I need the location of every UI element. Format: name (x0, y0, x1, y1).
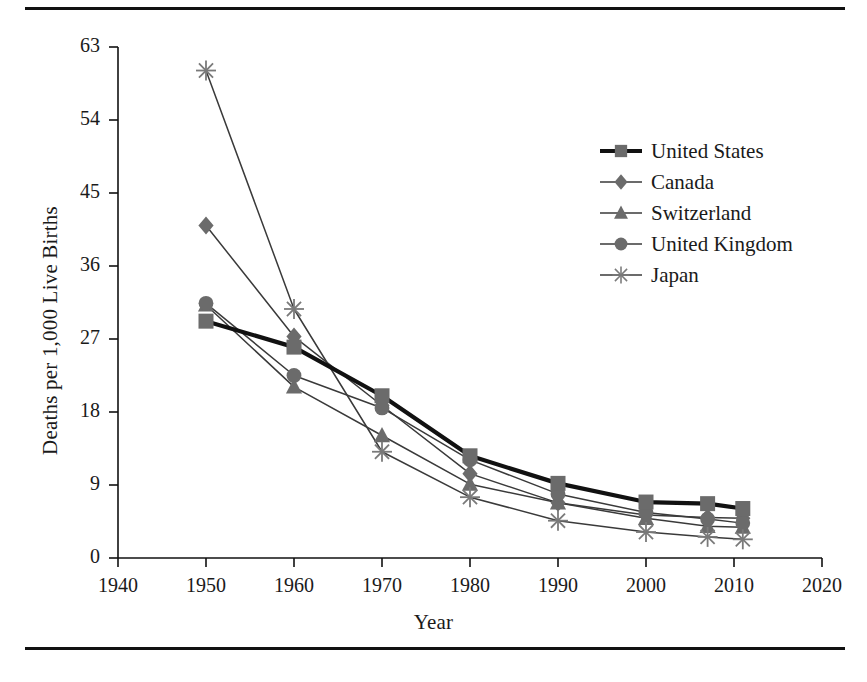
asterisk-ray (382, 445, 389, 452)
x-tick-label: 2000 (601, 574, 691, 597)
data-point-circle (287, 368, 302, 383)
asterisk-ray (615, 268, 621, 274)
data-point-square (700, 496, 715, 511)
asterisk-ray (621, 268, 627, 274)
legend-item-united-states[interactable]: United States (598, 135, 793, 166)
asterisk-ray (551, 521, 558, 528)
y-axis-title: Deaths per 1,000 Live Births (38, 101, 63, 561)
data-point-square (735, 501, 750, 516)
data-point-asterisk (284, 299, 304, 319)
asterisk-ray (701, 537, 708, 544)
square-marker (287, 340, 302, 355)
square-marker (735, 501, 750, 516)
x-tick-label: 1950 (161, 574, 251, 597)
diamond-marker (614, 174, 627, 190)
legend-label: United Kingdom (651, 233, 793, 255)
data-point-asterisk (548, 511, 568, 531)
data-point-square (551, 476, 566, 491)
figure-container: 0918273645546319401950196019701980199020… (0, 0, 867, 682)
circle-marker (199, 296, 214, 311)
asterisk-ray (639, 532, 646, 539)
legend-marker-circle-icon (598, 233, 644, 255)
x-axis-title: Year (0, 610, 867, 635)
chart-legend: United StatesCanadaSwitzerlandUnited Kin… (598, 135, 793, 290)
square-marker (700, 496, 715, 511)
asterisk-ray (287, 309, 294, 316)
legend-item-switzerland[interactable]: Switzerland (598, 197, 793, 228)
circle-marker (615, 237, 628, 250)
legend-label: Canada (651, 171, 714, 193)
asterisk-ray (199, 71, 206, 78)
square-marker (375, 388, 390, 403)
circle-marker (287, 368, 302, 383)
asterisk-ray (558, 514, 565, 521)
series-group (196, 61, 753, 550)
circle-marker (700, 512, 715, 527)
data-point-asterisk (372, 442, 392, 462)
x-tick-label: 1970 (337, 574, 427, 597)
square-marker (199, 314, 214, 329)
data-point-square (199, 314, 214, 329)
legend-marker-square-icon (598, 140, 644, 162)
legend-label: Switzerland (651, 202, 751, 224)
legend-marker-triangle-icon (598, 202, 644, 224)
data-point-asterisk (612, 266, 629, 283)
x-tick-label: 2010 (689, 574, 779, 597)
data-point-asterisk (636, 522, 656, 542)
data-point-circle (700, 512, 715, 527)
data-point-circle (735, 516, 750, 531)
asterisk-ray (375, 452, 382, 459)
circle-marker (735, 516, 750, 531)
data-point-triangle (614, 205, 628, 218)
legend-item-united-kingdom[interactable]: United Kingdom (598, 228, 793, 259)
data-point-asterisk (698, 527, 718, 547)
triangle-marker (374, 427, 390, 442)
legend-marker-asterisk-icon (598, 264, 644, 286)
asterisk-ray (736, 539, 743, 546)
data-point-square (463, 448, 478, 463)
x-tick-label: 1960 (249, 574, 339, 597)
asterisk-ray (621, 275, 627, 281)
legend-label: United States (651, 140, 764, 162)
asterisk-ray (199, 63, 206, 70)
data-point-asterisk (196, 61, 216, 81)
data-point-square (375, 388, 390, 403)
data-point-square (287, 340, 302, 355)
asterisk-ray (463, 497, 470, 504)
legend-item-japan[interactable]: Japan (598, 259, 793, 290)
x-tick-label: 1940 (73, 574, 163, 597)
x-tick-label: 1990 (513, 574, 603, 597)
data-point-circle (199, 296, 214, 311)
y-tick-label: 63 (40, 34, 100, 57)
data-point-asterisk (733, 529, 753, 549)
square-marker (615, 144, 627, 156)
triangle-marker (614, 205, 628, 218)
asterisk-ray (615, 275, 621, 281)
data-point-square (639, 495, 654, 510)
asterisk-ray (646, 525, 653, 532)
data-point-asterisk (460, 487, 480, 507)
data-point-diamond (614, 174, 627, 190)
legend-marker-diamond-icon (598, 171, 644, 193)
data-point-triangle (374, 427, 390, 442)
asterisk-ray (206, 63, 213, 70)
legend-item-canada[interactable]: Canada (598, 166, 793, 197)
square-marker (639, 495, 654, 510)
x-tick-label: 2020 (777, 574, 867, 597)
data-point-circle (615, 237, 628, 250)
square-marker (463, 448, 478, 463)
legend-label: Japan (651, 264, 699, 286)
asterisk-ray (743, 539, 750, 546)
x-tick-label: 1980 (425, 574, 515, 597)
asterisk-ray (294, 302, 301, 309)
asterisk-ray (470, 490, 477, 497)
square-marker (551, 476, 566, 491)
data-point-square (615, 144, 627, 156)
